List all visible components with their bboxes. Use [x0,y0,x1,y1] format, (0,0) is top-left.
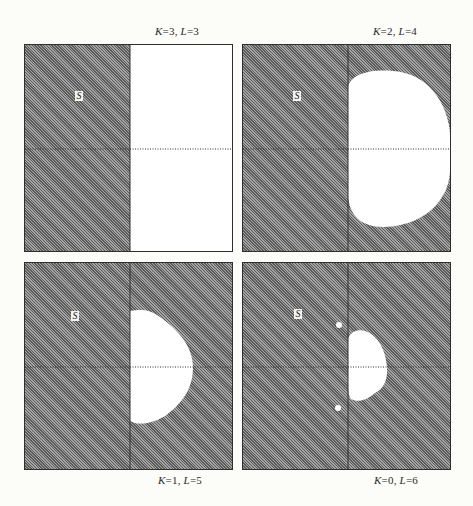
allowed-point-lower [335,405,341,411]
l-value: =3 [187,25,199,37]
l-value: =6 [406,474,418,486]
s-marker: S [293,91,301,101]
l-value: =4 [405,25,417,37]
l-value: =5 [190,474,202,486]
k-value: =2, [381,25,399,37]
panel-1-plot [25,45,233,252]
panel-3-plot [25,263,233,470]
k-value: =0, [382,474,400,486]
allowed-point-upper [336,322,342,328]
k-variable: K [158,474,166,486]
allowed-region [348,330,387,401]
panel-3-label: K=1, L=5 [158,474,202,486]
s-marker: S [75,91,83,101]
panel-2-label: K=2, L=4 [373,25,417,37]
s-marker: S [71,311,79,321]
allowed-region [130,310,193,424]
k-value: =1, [166,474,184,486]
k-value: =3, [163,25,181,37]
k-variable: K [373,25,381,37]
s-marker: S [294,309,302,319]
k-variable: K [155,25,163,37]
panel-4-plot [243,263,451,470]
k-variable: K [374,474,382,486]
panel-1-label: K=3, L=3 [155,25,199,37]
panel-k3-l3: S [24,44,233,252]
panel-4-label: K=0, L=6 [374,474,418,486]
panel-k1-l5: S [24,262,233,470]
panel-k0-l6: S [242,262,451,470]
panel-2-plot [243,45,451,252]
panel-k2-l4: S [242,44,451,252]
